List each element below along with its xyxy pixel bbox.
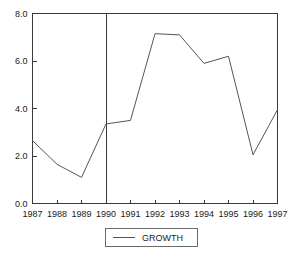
y-tick-label-0.0: 0.0: [15, 199, 28, 209]
x-axis-ticks: [33, 200, 278, 204]
x-tick-label-1988: 1988: [47, 209, 67, 219]
x-tick-label-1989: 1989: [71, 209, 91, 219]
series-line-growth: [33, 34, 278, 178]
x-axis-tick-labels: 1987198819891990199119921993199419951996…: [22, 209, 287, 219]
y-tick-label-2.0: 2.0: [15, 151, 28, 161]
growth-line-chart: 0.02.04.06.08.0 198719881989199019911992…: [0, 0, 294, 257]
chart-legend: GROWTH: [106, 229, 198, 247]
y-axis-tick-labels: 0.02.04.06.08.0: [15, 9, 28, 209]
x-tick-label-1991: 1991: [120, 209, 140, 219]
x-tick-label-1994: 1994: [194, 209, 214, 219]
x-tick-label-1987: 1987: [22, 209, 42, 219]
data-series-group: [33, 34, 278, 178]
legend-label-growth: GROWTH: [142, 233, 183, 243]
axis-frame: [33, 14, 278, 204]
plot-frame: [33, 14, 278, 204]
x-tick-label-1995: 1995: [218, 209, 238, 219]
y-axis-ticks: [33, 14, 37, 204]
y-tick-label-6.0: 6.0: [15, 56, 28, 66]
x-tick-label-1990: 1990: [96, 209, 116, 219]
x-tick-label-1996: 1996: [243, 209, 263, 219]
x-tick-label-1992: 1992: [145, 209, 165, 219]
y-tick-label-8.0: 8.0: [15, 9, 28, 19]
chart-canvas: 0.02.04.06.08.0 198719881989199019911992…: [0, 0, 294, 257]
y-tick-label-4.0: 4.0: [15, 104, 28, 114]
x-tick-label-1993: 1993: [169, 209, 189, 219]
x-tick-label-1997: 1997: [267, 209, 287, 219]
